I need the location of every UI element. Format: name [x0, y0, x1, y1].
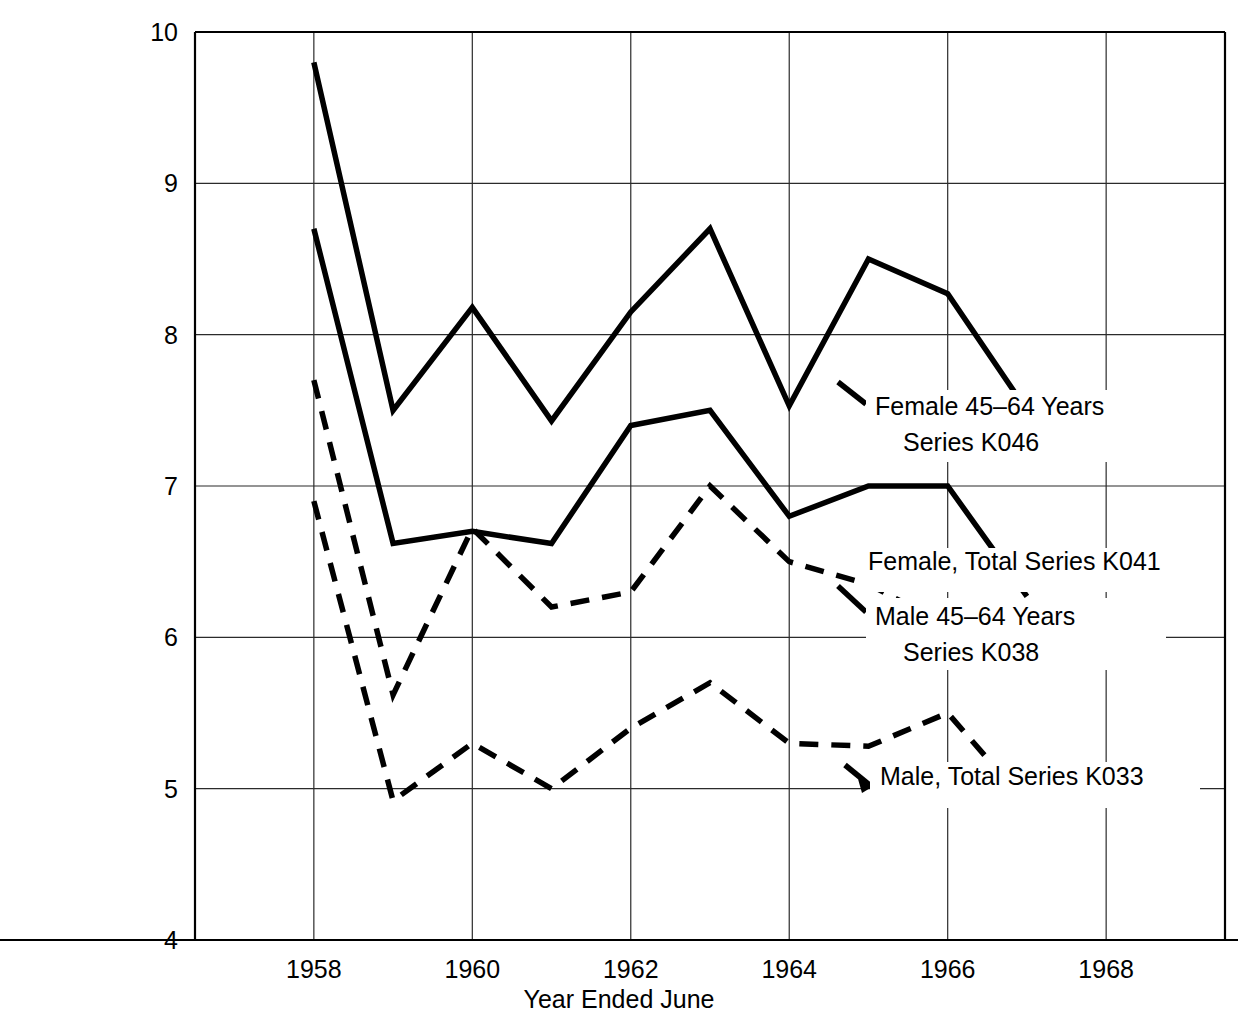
- label-k041-line1: Female, Total Series K041: [868, 547, 1161, 575]
- label-k046-line1: Female 45–64 Years: [875, 392, 1104, 420]
- y-axis-tick-label: 4: [164, 926, 178, 954]
- line-chart: 45678910 195819601962196419661968 Female…: [0, 0, 1238, 1027]
- x-axis-tick-label: 1968: [1078, 955, 1134, 983]
- y-axis-tick-label: 6: [164, 623, 178, 651]
- label-k046-line2: Series K046: [903, 428, 1039, 456]
- x-axis-tick-label: 1962: [603, 955, 659, 983]
- y-axis-tick-label: 5: [164, 775, 178, 803]
- x-axis-tick-label: 1966: [920, 955, 976, 983]
- label-k038-line2: Series K038: [903, 638, 1039, 666]
- y-axis-tick-label: 10: [150, 18, 178, 46]
- chart-container: 45678910 195819601962196419661968 Female…: [0, 0, 1238, 1027]
- y-axis-tick-label: 9: [164, 169, 178, 197]
- y-axis-tick-labels: 45678910: [150, 18, 178, 954]
- x-axis-tick-label: 1958: [286, 955, 342, 983]
- label-k038-line1: Male 45–64 Years: [875, 602, 1075, 630]
- x-axis-tick-labels: 195819601962196419661968: [286, 955, 1134, 983]
- x-axis-title: Year Ended June: [524, 985, 715, 1013]
- label-k033-line1: Male, Total Series K033: [880, 762, 1144, 790]
- x-axis-tick-label: 1964: [761, 955, 817, 983]
- y-axis-tick-label: 7: [164, 472, 178, 500]
- x-axis-tick-label: 1960: [444, 955, 500, 983]
- y-axis-tick-label: 8: [164, 321, 178, 349]
